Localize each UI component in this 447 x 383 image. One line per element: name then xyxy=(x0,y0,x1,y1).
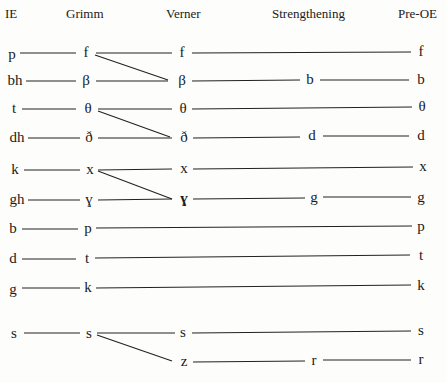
ie-g: g xyxy=(9,282,17,297)
strengthening-g: g xyxy=(310,190,318,205)
connector-lines xyxy=(0,0,447,383)
ie-dh: dh xyxy=(10,130,25,145)
grimm-t: t xyxy=(85,251,89,266)
preoe-d: d xyxy=(417,128,425,143)
verner-f: f xyxy=(180,45,185,60)
preoe-k: k xyxy=(417,278,425,293)
strengthening-d: d xyxy=(308,128,316,143)
preoe-g: g xyxy=(417,190,425,205)
verner-x: x xyxy=(180,161,188,176)
ie-gh: gh xyxy=(10,192,25,207)
grimm-p: p xyxy=(84,221,92,236)
grimm-theta: θ xyxy=(84,101,91,116)
grimm-f: f xyxy=(84,45,89,60)
preoe-t: t xyxy=(419,248,423,263)
ie-k: k xyxy=(11,162,19,177)
preoe-s: s xyxy=(418,323,424,338)
preoe-p: p xyxy=(417,219,425,234)
ie-d: d xyxy=(9,251,17,266)
ie-t: t xyxy=(12,101,16,116)
preoe-x: x xyxy=(419,159,427,174)
ie-bh: bh xyxy=(8,73,23,88)
grimm-eth: ð xyxy=(85,130,93,145)
verner-theta: θ xyxy=(179,101,186,116)
grimm-k: k xyxy=(84,280,92,295)
grimm-gamma: ɣ xyxy=(85,192,93,207)
preoe-theta: θ xyxy=(418,99,425,114)
strengthening-r: r xyxy=(312,353,317,368)
grimm-beta: β xyxy=(82,73,90,88)
grimm-s: s xyxy=(86,326,92,341)
ie-b: b xyxy=(9,221,17,236)
verner-z: z xyxy=(181,354,188,369)
preoe-r: r xyxy=(419,352,424,367)
ie-p: p xyxy=(8,47,16,62)
verner-gamma: ɣ xyxy=(180,191,188,206)
preoe-f: f xyxy=(419,44,424,59)
strengthening-b: b xyxy=(306,72,314,87)
ie-s: s xyxy=(11,326,17,341)
verner-s: s xyxy=(180,325,186,340)
grimm-x: x xyxy=(86,162,94,177)
verner-eth: ð xyxy=(180,130,188,145)
verner-beta: β xyxy=(178,73,186,88)
preoe-b: b xyxy=(417,72,425,87)
